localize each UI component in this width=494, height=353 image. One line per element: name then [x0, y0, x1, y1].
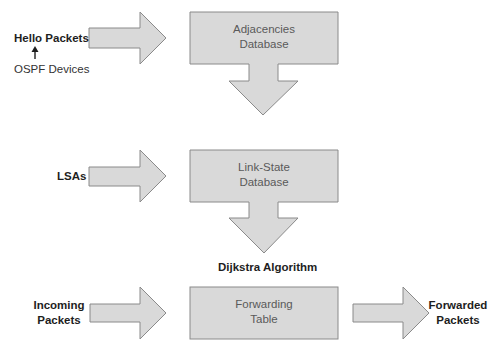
link-state-line1: Link-State	[190, 160, 338, 175]
right-arrow-icon	[89, 12, 166, 64]
adjacencies-line1: Adjacencies	[190, 22, 338, 37]
link-state-line2: Database	[190, 175, 338, 190]
right-arrow-icon	[353, 287, 429, 339]
adjacencies-database-label: Adjacencies Database	[190, 22, 338, 52]
adjacencies-line2: Database	[190, 37, 338, 52]
dijkstra-algorithm-label: Dijkstra Algorithm	[218, 260, 317, 274]
incoming-line1: Incoming	[30, 298, 88, 313]
forwarding-line1: Forwarding	[190, 297, 338, 312]
forwarding-line2: Table	[190, 312, 338, 327]
right-arrow-icon	[89, 150, 166, 202]
lsas-label: LSAs	[57, 169, 86, 183]
link-state-database-label: Link-State Database	[190, 160, 338, 190]
forwarded-line1: Forwarded	[428, 298, 488, 313]
up-arrow-icon	[32, 46, 39, 59]
hello-packets-label: Hello Packets	[14, 31, 89, 45]
incoming-line2: Packets	[30, 313, 88, 328]
incoming-packets-label: Incoming Packets	[30, 298, 88, 328]
forwarding-table-label: Forwarding Table	[190, 297, 338, 327]
forwarded-packets-label: Forwarded Packets	[428, 298, 488, 328]
ospf-devices-label: OSPF Devices	[14, 62, 89, 76]
forwarded-line2: Packets	[428, 313, 488, 328]
right-arrow-icon	[90, 287, 166, 339]
